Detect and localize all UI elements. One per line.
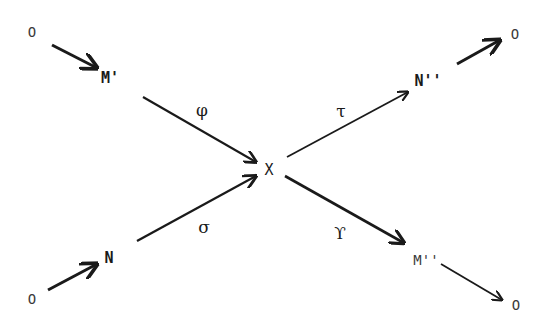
edge-m-double-prime-to-o <box>441 264 502 300</box>
diagram-canvas: O M' X N'' O O N M'' O φ τ σ ϒ <box>0 0 545 328</box>
node-m-double-prime: M'' <box>413 253 438 267</box>
edge-label-phi: φ <box>196 102 208 119</box>
node-o-top-left: O <box>28 25 36 39</box>
edge-n-to-x <box>137 176 256 241</box>
node-o-bottom-left: O <box>28 292 36 306</box>
edge-label-upsilon: ϒ <box>334 225 346 242</box>
node-n: N <box>104 251 113 266</box>
edge-o-to-n <box>48 264 97 290</box>
node-x: X <box>264 163 273 178</box>
edge-x-to-n-double-prime <box>287 92 408 157</box>
node-o-top-right: O <box>511 27 519 41</box>
edge-n-double-prime-to-o <box>457 40 500 64</box>
node-n-double-prime: N'' <box>414 74 441 89</box>
edge-label-sigma: σ <box>198 219 210 236</box>
edge-label-tau: τ <box>336 103 345 120</box>
edge-o-to-m-prime <box>52 45 97 68</box>
node-o-bottom-right: O <box>512 298 520 312</box>
node-m-prime: M' <box>101 71 119 86</box>
